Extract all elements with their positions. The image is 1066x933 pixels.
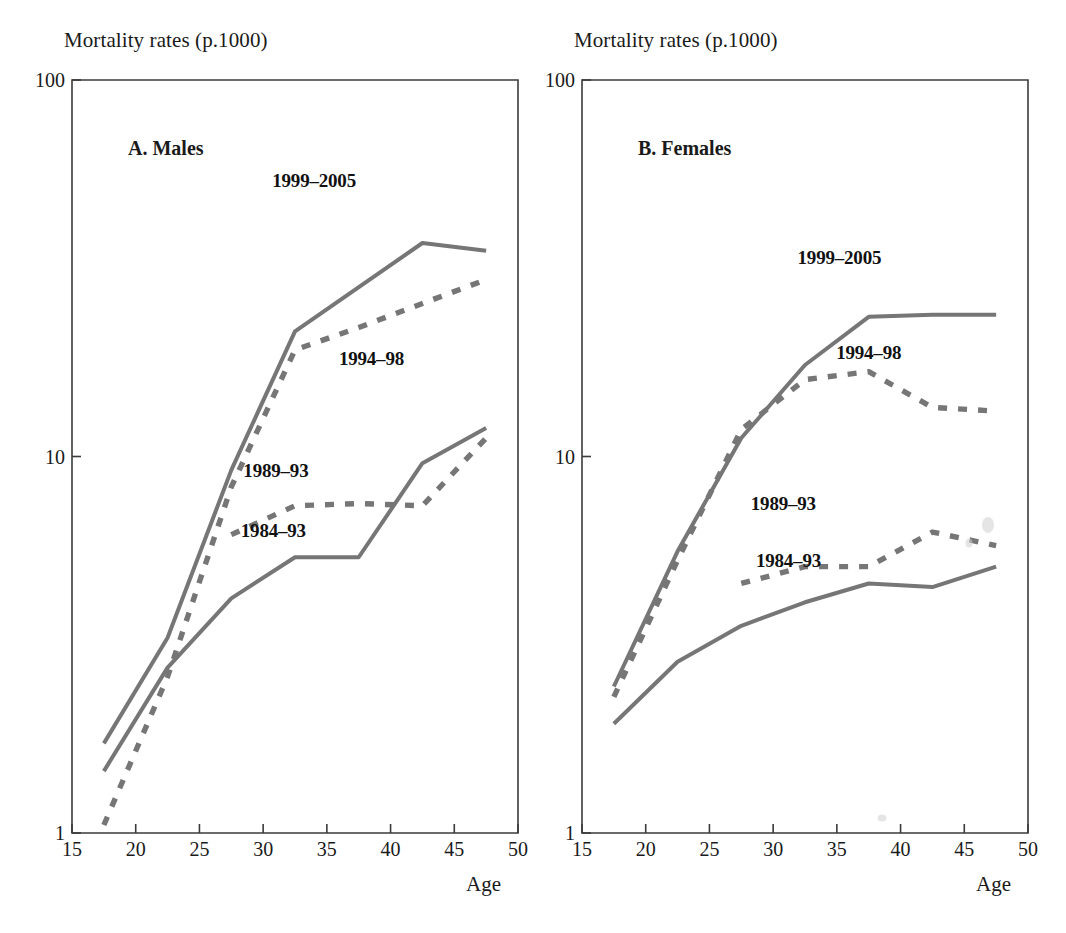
y-axis-tick-label: 1	[55, 822, 65, 844]
y-axis-tick-label: 10	[555, 446, 575, 468]
x-axis-tick-label: 40	[891, 838, 911, 860]
panel-title-females: B. Females	[638, 137, 731, 160]
series-annotation-label: 1984–93	[756, 550, 821, 571]
x-axis-tick-label: 20	[636, 838, 656, 860]
series-annotation-label: 1984–93	[241, 520, 306, 541]
panel-males: Mortality rates (p.1000) A. Males 152025…	[0, 0, 533, 933]
y-axis-tick-label: 100	[545, 69, 575, 91]
y-axis-title-males: Mortality rates (p.1000)	[64, 28, 268, 53]
y-axis-title-females: Mortality rates (p.1000)	[574, 28, 778, 53]
series-annotation-label: 1989–93	[243, 460, 308, 481]
x-axis-tick-label: 20	[126, 838, 146, 860]
scan-smudge	[966, 539, 973, 548]
x-axis-tick-label: 45	[444, 838, 464, 860]
series-line-1994-98	[104, 280, 486, 825]
x-axis-name-males: Age	[466, 872, 501, 897]
series-annotation-label: 1994–98	[339, 348, 404, 369]
y-axis-tick-label: 100	[35, 69, 65, 91]
x-axis-tick-label: 15	[62, 838, 82, 860]
series-line-1999-2005	[104, 243, 486, 743]
x-axis-tick-label: 15	[572, 838, 592, 860]
chart-svg-males: 15202530354045501101001999–20051994–9819…	[0, 0, 533, 933]
series-line-1984-93	[614, 567, 996, 724]
series-annotation-label: 1999–2005	[798, 247, 882, 268]
series-annotation-label: 1989–93	[751, 493, 816, 514]
x-axis-tick-label: 35	[827, 838, 847, 860]
y-axis-tick-label: 10	[45, 446, 65, 468]
x-axis-tick-label: 35	[317, 838, 337, 860]
chart-svg-females: 15202530354045501101001999–20051994–9819…	[510, 0, 1043, 933]
panel-title-males: A. Males	[128, 137, 204, 160]
x-axis-tick-label: 30	[763, 838, 783, 860]
y-axis-tick-label: 1	[565, 822, 575, 844]
x-axis-tick-label: 50	[1018, 838, 1038, 860]
scan-smudge	[982, 517, 994, 533]
scan-smudge	[878, 815, 887, 822]
x-axis-tick-label: 30	[253, 838, 273, 860]
x-axis-tick-label: 45	[954, 838, 974, 860]
series-annotation-label: 1994–98	[836, 342, 901, 363]
plot-frame	[72, 80, 518, 833]
figure-root: Mortality rates (p.1000) A. Males 152025…	[0, 0, 1066, 933]
x-axis-tick-label: 25	[699, 838, 719, 860]
panel-females: Mortality rates (p.1000) B. Females 1520…	[510, 0, 1043, 933]
x-axis-tick-label: 40	[381, 838, 401, 860]
plot-frame	[582, 80, 1028, 833]
x-axis-tick-label: 25	[189, 838, 209, 860]
series-annotation-label: 1999–2005	[272, 170, 356, 191]
x-axis-name-females: Age	[976, 872, 1011, 897]
